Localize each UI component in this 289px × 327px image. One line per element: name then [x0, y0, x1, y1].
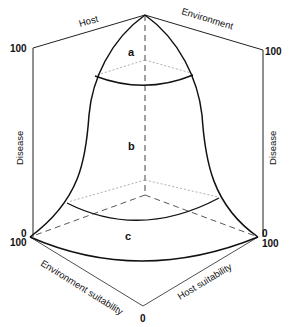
region-b-label: b — [128, 140, 135, 152]
right-tick-100: 100 — [265, 46, 282, 57]
floor-right-dashed — [145, 195, 258, 237]
level-ab-right-dotted — [145, 60, 191, 73]
right-disease-label: Disease — [267, 131, 278, 165]
left-tick-100: 100 — [10, 43, 27, 54]
bottom-tick-0: 0 — [140, 313, 146, 324]
left-disease-label: Disease — [14, 131, 25, 165]
level-bc-right-dotted — [145, 180, 218, 197]
left-tick-100-bottom: 100 — [10, 237, 27, 248]
host-suitability-edge — [143, 237, 258, 306]
host-label: Host — [78, 13, 100, 29]
region-a-label: a — [128, 46, 135, 58]
boundary-a-b — [95, 75, 193, 85]
right-tick-100-bottom: 100 — [262, 238, 279, 249]
region-c-label: c — [125, 230, 131, 242]
boundary-b-c — [67, 198, 219, 220]
disease-diagram: Host Environment Disease Disease Environ… — [0, 0, 289, 327]
bell-right-outline — [145, 15, 258, 237]
level-bc-left-dotted — [68, 180, 145, 202]
